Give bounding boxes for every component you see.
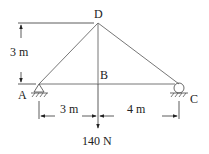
height-label: 3 m xyxy=(10,45,29,59)
truss-members xyxy=(39,23,179,84)
left-span-label: 3 m xyxy=(60,102,79,116)
node-label-B: B xyxy=(100,68,108,82)
span-dimension: 3 m 4 m xyxy=(39,101,179,119)
roller-support-icon xyxy=(170,83,188,97)
right-span-label: 4 m xyxy=(127,102,146,116)
pin-support-icon xyxy=(31,84,48,97)
node-label-C: C xyxy=(190,92,198,106)
member-AD xyxy=(39,23,98,84)
member-DC xyxy=(98,23,179,84)
node-label-D: D xyxy=(94,7,103,21)
load-label: 140 N xyxy=(82,134,112,148)
truss-diagram: 3 m 3 m 4 m 140 N D B A C xyxy=(0,0,209,154)
height-dimension: 3 m xyxy=(10,23,94,84)
node-label-A: A xyxy=(18,88,27,102)
